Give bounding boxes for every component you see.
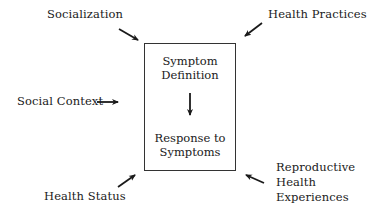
arrows-layer xyxy=(0,0,367,217)
health-status-arrow-icon xyxy=(118,175,135,187)
reproductive-arrow-icon xyxy=(246,175,264,183)
socialization-arrow-icon xyxy=(119,29,138,40)
health-practices-arrow-icon xyxy=(245,23,262,36)
